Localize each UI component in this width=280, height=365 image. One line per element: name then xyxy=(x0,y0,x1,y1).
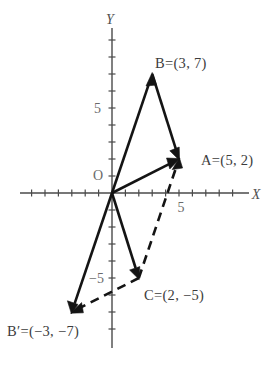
x-tick-label-5: 5 xyxy=(178,200,185,215)
figure-background xyxy=(0,0,280,365)
label-point-A: A=(5, 2) xyxy=(201,152,253,169)
y-tick-label-neg5: −5 xyxy=(89,271,104,286)
label-point-B: B=(3, 7) xyxy=(155,55,207,72)
origin-label: O xyxy=(93,168,103,183)
label-point-C: C=(2, −5) xyxy=(144,287,204,304)
vector-diagram: X Y O 5 −5 5 B=(3, 7) A=(5, xyxy=(0,0,280,365)
label-point-B-prime: B′=(−3, −7) xyxy=(7,323,79,340)
y-tick-label-5: 5 xyxy=(94,101,101,116)
x-axis-label: X xyxy=(251,187,261,202)
